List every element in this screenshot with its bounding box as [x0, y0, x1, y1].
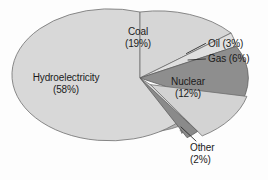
nuclear-label: Nuclear (12%): [160, 76, 216, 99]
hydroelectricity-label: Hydroelectricity (58%): [16, 72, 116, 95]
hydroelectricity-label-name: Hydroelectricity: [33, 72, 100, 83]
other-label-name: Other: [190, 142, 215, 153]
coal-label-name: Coal: [128, 26, 148, 37]
coal-label-percent: (19%): [112, 38, 164, 50]
gas-label: Gas (6%): [208, 53, 249, 65]
pie-chart-figure: Hydroelectricity (58%) Coal (19%) Nuclea…: [0, 0, 268, 180]
nuclear-label-name: Nuclear: [171, 76, 205, 87]
hydroelectricity-label-percent: (58%): [16, 84, 116, 96]
nuclear-label-percent: (12%): [160, 88, 216, 100]
other-label-percent: (2%): [190, 154, 215, 166]
other-label: Other (2%): [190, 142, 215, 165]
coal-label: Coal (19%): [112, 26, 164, 49]
oil-label: Oil (3%): [208, 38, 243, 50]
